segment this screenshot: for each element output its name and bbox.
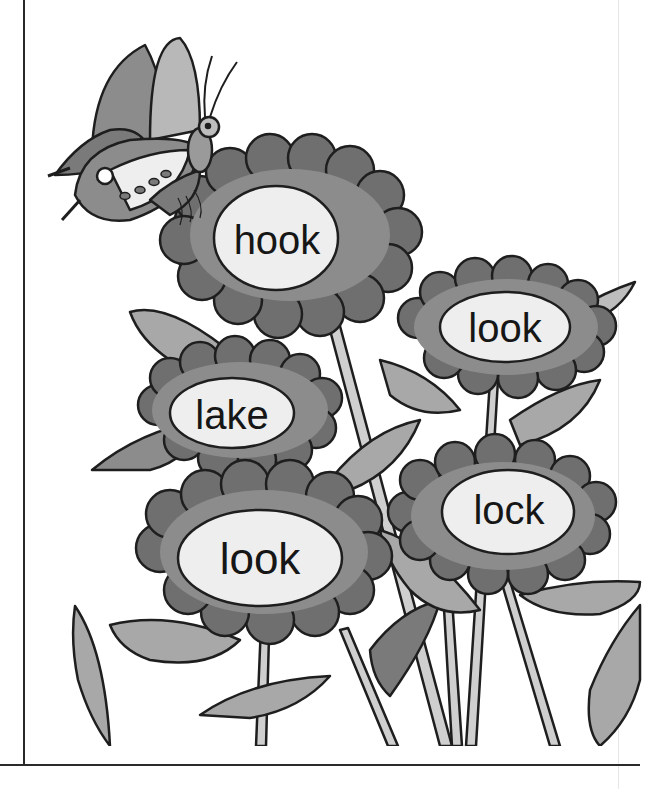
word-hook: hook [214,220,340,260]
worksheet-panel: hook look lake look lock [0,0,657,789]
word-look-lower: look [198,537,322,581]
word-look-upper: look [452,308,558,348]
word-lake: lake [180,395,284,435]
word-lock: lock [458,490,560,530]
flower-illustration [0,0,657,789]
bottom-border-line [0,764,640,766]
